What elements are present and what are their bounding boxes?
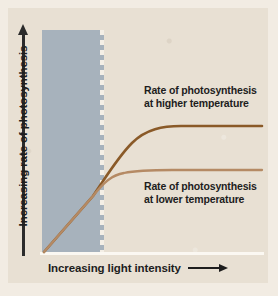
label-higher-line2: at higher temperature (144, 97, 257, 110)
figure-root: Increasing rate of photosynthesis Increa… (0, 0, 278, 296)
x-axis-title-group: Increasing light intensity (48, 262, 228, 274)
light-limited-shaded-region (42, 30, 102, 252)
x-axis-line (40, 252, 264, 255)
label-lower-temperature: Rate of photosynthesis at lower temperat… (144, 180, 257, 206)
shaded-region-dashed-boundary (100, 30, 104, 252)
x-axis-title: Increasing light intensity (48, 262, 181, 274)
label-higher-line1: Rate of photosynthesis (144, 84, 257, 97)
y-axis-title: Increasing rate of photosynthesis (17, 21, 29, 251)
label-lower-line2: at lower temperature (144, 193, 257, 206)
label-higher-temperature: Rate of photosynthesis at higher tempera… (144, 84, 257, 110)
label-lower-line1: Rate of photosynthesis (144, 180, 257, 193)
arrow-right-icon (188, 264, 228, 273)
